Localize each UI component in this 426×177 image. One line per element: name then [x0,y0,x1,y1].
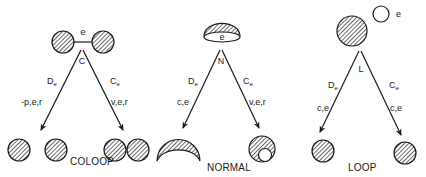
deletion-edges-label: -p,e,r [21,97,42,107]
deletion-op-label: De [47,76,58,87]
panel-caption: LOOP [348,162,377,173]
contraction-edges-label: v,e,r [111,97,128,107]
contraction-edges-label: c,e [390,103,402,113]
loop-edge-circle [373,6,389,22]
contraction-op-label: Ce [243,76,254,87]
vertex-circle [337,16,367,46]
result-vertex-circle [312,140,334,162]
deletion-edges-label: c,e [177,97,189,107]
contraction-arrow [83,50,123,130]
panel-coloop: e C De Ce -p,e,r v,e,r COLOOP [8,27,149,167]
vertex-circle [92,31,114,53]
result-vertex-circle [394,142,416,164]
deletion-op-label: De [328,80,339,91]
panel-loop: e L De Ce c,e c,e LOOP [312,6,416,173]
crescent-shape [157,139,200,161]
operation-vertex-label: C [79,56,86,66]
deletion-arrow [183,50,220,128]
deletion-arrow [41,50,81,130]
edge-operations-diagram: e C De Ce -p,e,r v,e,r COLOOP e N De Ce … [0,0,426,177]
result-vertex-circle [8,139,30,161]
contraction-op-label: Ce [110,76,121,87]
panel-normal: e N De Ce c,e v,e,r NORMAL [157,23,275,173]
contraction-arrow [361,51,401,135]
panel-caption: NORMAL [207,162,251,173]
contraction-op-label: Ce [389,80,400,91]
operation-vertex-label: L [358,64,363,74]
vertex-circle [52,31,74,53]
contraction-edges-label: v,e,r [249,97,266,107]
edge-label: e [219,32,224,42]
deletion-arrow [320,51,359,132]
edge-label: e [396,9,401,19]
loop-top-graph: e [337,6,401,46]
deletion-op-label: De [188,76,199,87]
result-vertex-circle [127,139,149,161]
deletion-edges-label: c,e [317,103,329,113]
panel-caption: COLOOP [70,156,114,167]
contraction-arrow [222,50,259,128]
hole-circle [259,149,272,162]
normal-top-graph: e [204,23,240,42]
edge-label: e [80,27,85,37]
coloop-top-graph: e [52,27,114,53]
result-vertex-circle [45,139,67,161]
operation-vertex-label: N [218,56,225,66]
